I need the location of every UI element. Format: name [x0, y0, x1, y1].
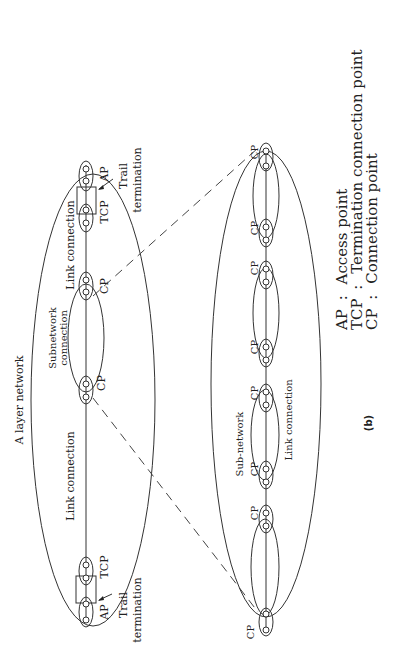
link-connection-label: Link connection: [283, 379, 294, 461]
legend: AP : Access point TCP : Termination conn…: [333, 50, 381, 331]
cp-label-2: CP: [249, 221, 260, 236]
layer-network-title: A layer network: [13, 355, 26, 445]
subnetwork-ellipse-4: [251, 519, 279, 615]
legend-sep-cp: :: [363, 295, 381, 300]
legend-sep-tcp: :: [348, 285, 366, 290]
trail-termination-left-1: Trail: [117, 591, 130, 618]
ap-label-right: AP: [98, 166, 111, 183]
link-connection-label-left: Link connection: [64, 431, 77, 520]
layer-network: A layer network Subnetwork connection Li…: [13, 147, 155, 642]
layer-network-diagram: A layer network Subnetwork connection Li…: [0, 0, 395, 663]
cp-label-4: CP: [249, 340, 260, 355]
sub-network-expansion: CP CP CP CP CP CP CP CP Sub-network Link…: [211, 143, 321, 639]
trail-termination-right-2: termination: [131, 147, 144, 212]
tcp-label-left: TCP: [98, 555, 111, 579]
sub-network-label: Sub-network: [234, 411, 245, 477]
legend-text-cp: Connection point: [363, 153, 381, 284]
cp-label-6: CP: [249, 462, 260, 477]
cp-label-7: CP: [249, 506, 260, 521]
trail-termination-right-1: Trail: [117, 162, 130, 189]
trail-termination-left-2: termination: [131, 577, 144, 642]
cp-label-3: CP: [249, 261, 260, 276]
ap-label-left: AP: [98, 604, 111, 621]
layer-network-boundary: [31, 174, 155, 626]
tcp-label-right: TCP: [98, 200, 111, 224]
legend-abbr-cp: CP: [363, 308, 381, 330]
cp-label-8: CP: [245, 625, 256, 640]
cp-label-left: CP: [95, 374, 108, 390]
cp-label-1: CP: [249, 145, 260, 160]
figure-caption: (b): [363, 415, 374, 431]
subnetwork-connection-label-1: Subnetwork: [47, 306, 58, 368]
link-connection-label-right: Link connection: [64, 200, 77, 289]
subnetwork-connection-label-2: connection: [58, 310, 69, 366]
cp-label-5: CP: [249, 386, 260, 401]
